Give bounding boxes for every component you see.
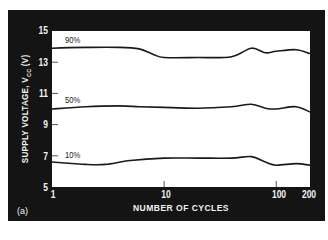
panel-label: (a) <box>17 206 28 216</box>
x-tick-200: 200 <box>302 189 316 200</box>
y-tick-11: 11 <box>34 88 48 99</box>
y-tick-15: 15 <box>34 25 48 36</box>
y-tick-13: 13 <box>34 57 48 68</box>
y-tick-7: 7 <box>34 151 48 162</box>
x-tick-10: 10 <box>161 189 170 200</box>
x-tick-1: 1 <box>51 189 56 200</box>
y-tick-5: 5 <box>34 182 48 193</box>
x-tick-100: 100 <box>272 189 286 200</box>
y-tick-9: 9 <box>34 119 48 130</box>
series-line-10 <box>52 156 310 165</box>
x-axis-label: NUMBER OF CYCLES <box>133 202 229 213</box>
series-line-90 <box>52 47 310 58</box>
series-line-50 <box>52 104 310 112</box>
y-axis-label: SUPPLY VOLTAGE, VCC (V) <box>20 41 32 176</box>
series-label-50: 50% <box>65 95 80 105</box>
series-label-10: 10% <box>65 150 80 160</box>
series-label-90: 90% <box>65 35 80 45</box>
